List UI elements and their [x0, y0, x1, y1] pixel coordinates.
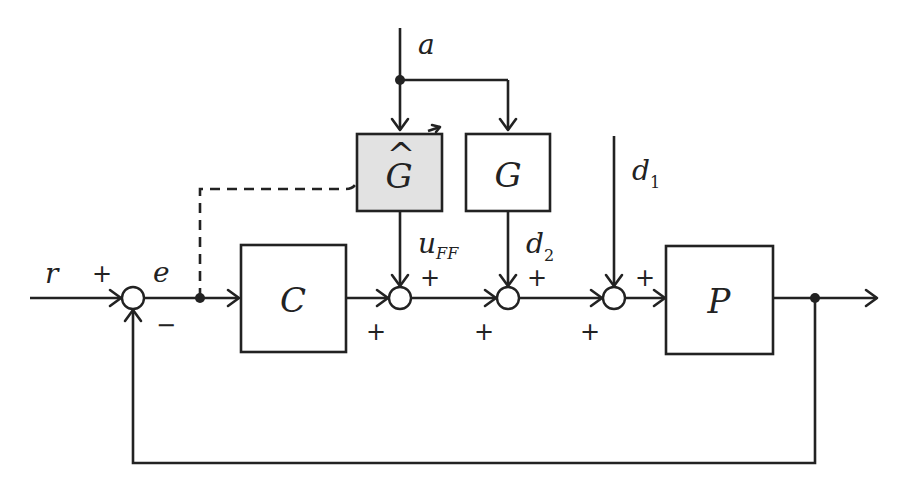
sum2-plus-left: + — [366, 318, 386, 346]
error-label: e — [153, 256, 170, 289]
feedforward-label: uFF — [418, 227, 459, 263]
sum1-minus-sign: − — [156, 311, 176, 339]
disturbance-model-label: G — [494, 155, 521, 195]
sum2-to-sum3-wire — [411, 290, 496, 306]
disturbance-model-block-g[interactable]: G — [466, 134, 550, 211]
disturbance2-wire — [500, 211, 516, 286]
summing-junction-4 — [603, 287, 625, 309]
reference-wire — [30, 290, 121, 306]
summing-junction-3 — [497, 287, 519, 309]
plant-input-wire — [625, 290, 665, 306]
controller-output-wire — [346, 290, 388, 306]
disturbance1-label: d1 — [632, 154, 660, 192]
sum3-plus-top: + — [527, 264, 547, 292]
block-diagram: r + − e C + a G ^ — [0, 0, 910, 494]
model-block-ghat[interactable]: G ^ — [357, 134, 442, 211]
feedforward-wire — [392, 211, 408, 286]
input-a-label: a — [418, 28, 435, 61]
sum3-to-sum4-wire — [519, 290, 602, 306]
input-a-wire — [392, 28, 516, 130]
reference-label: r — [45, 257, 60, 290]
output-wire — [773, 290, 877, 306]
controller-label: C — [280, 280, 306, 320]
sum4-plus-left: + — [580, 318, 600, 346]
summing-junction-2 — [389, 287, 411, 309]
sum4-plus-top: + — [635, 264, 655, 292]
sum3-plus-left: + — [474, 318, 494, 346]
disturbance2-label: d2 — [526, 227, 554, 265]
plant-label: P — [707, 281, 732, 321]
summing-junction-1 — [122, 287, 144, 309]
plant-block[interactable]: P — [666, 246, 773, 354]
model-hat-accent: ^ — [387, 134, 416, 174]
disturbance1-wire — [606, 136, 622, 286]
sum2-plus-top: + — [420, 264, 440, 292]
error-wire — [144, 290, 239, 306]
input-a-branch-node — [395, 75, 405, 85]
adaptive-arrow-icon — [428, 125, 440, 132]
controller-block[interactable]: C — [241, 245, 346, 352]
sum1-plus-sign: + — [92, 260, 112, 288]
